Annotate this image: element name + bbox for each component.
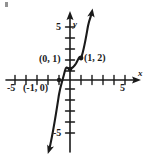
annotation-point-1-2: (1, 2) xyxy=(84,53,106,63)
y-axis xyxy=(67,11,74,152)
x-tick-label-neg5: -5 xyxy=(7,83,15,93)
y-tick-label-5: 5 xyxy=(56,22,61,32)
x-axis-label: x xyxy=(138,69,143,78)
x-tick-label-5: 5 xyxy=(120,83,125,93)
point-1-2-dot xyxy=(79,56,84,61)
y-axis-label: y xyxy=(73,20,77,29)
annotation-point-0-1: (0, 1) xyxy=(39,54,61,64)
y-tick-label-neg5: -5 xyxy=(53,128,61,138)
point-0-1-dot xyxy=(68,67,73,72)
annotation-point-neg1-0: (-1, 0) xyxy=(23,83,48,93)
point-neg1-0-dot xyxy=(57,78,61,82)
graph-figure: y x -5 5 5 -5 (0, 1) (1, 2) (-1, 0) xyxy=(0,0,151,156)
